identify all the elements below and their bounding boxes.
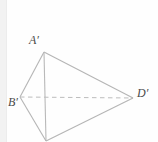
geometry-figure: A′ B′ D′ bbox=[0, 0, 158, 142]
edge-b-prime-d-prime-hidden bbox=[20, 97, 133, 98]
edge-a-prime-c-prime bbox=[44, 52, 46, 141]
vertex-label-d-prime: D′ bbox=[137, 86, 148, 101]
vertex-label-b-prime: B′ bbox=[8, 95, 18, 110]
vertex-label-a-prime: A′ bbox=[29, 33, 39, 48]
edge-c-prime-d-prime bbox=[46, 98, 133, 141]
tetrahedron-wireframe bbox=[0, 0, 158, 142]
edge-a-prime-b-prime bbox=[20, 52, 44, 97]
edge-a-prime-d-prime bbox=[44, 52, 133, 98]
edge-b-prime-c-prime bbox=[20, 97, 46, 141]
